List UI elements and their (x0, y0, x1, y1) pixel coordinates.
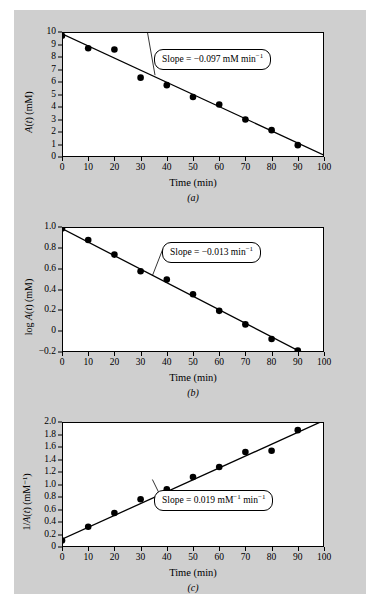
y-tick-label: 0 (51, 542, 62, 552)
data-point (295, 142, 302, 149)
x-tick-label: 10 (83, 547, 93, 563)
y-axis-label-b-text: log A(t) (mM) (23, 278, 34, 335)
slope-annotation-a: Slope = −0.097 mM min−1 (154, 49, 271, 70)
y-tick-label: 0 (51, 152, 62, 162)
panel-letter-b: (b) (62, 387, 324, 398)
y-tick-label: 0.2 (44, 306, 62, 316)
data-point (268, 127, 275, 134)
y-tick-label: 0.8 (44, 492, 62, 502)
y-axis-label-c-text: 1/A(t) (mM⁻¹) (21, 473, 32, 530)
data-point (137, 496, 144, 503)
plot-area-c: 010203040506070809010000.20.40.60.81.01.… (62, 422, 324, 547)
y-tick-label: 0 (51, 326, 62, 336)
chart-panel-b: log A(t) (mM) 0102030405060708090100−0.2… (14, 209, 366, 404)
x-tick-label: 10 (83, 352, 93, 368)
y-tick-label: −0.2 (39, 347, 62, 357)
y-tick-label: 0.4 (44, 517, 62, 527)
data-point (111, 251, 118, 258)
x-tick-label: 10 (83, 157, 93, 173)
data-point (111, 510, 118, 517)
data-point (242, 321, 249, 328)
y-axis-label-b: log A(t) (mM) (23, 278, 34, 335)
x-tick-label: 20 (110, 157, 120, 173)
data-point (216, 101, 223, 108)
data-point (242, 116, 249, 123)
x-tick-label: 90 (293, 547, 303, 563)
x-tick-label: 100 (317, 157, 331, 173)
x-tick-label: 20 (110, 352, 120, 368)
x-tick-label: 70 (241, 157, 251, 173)
x-tick-label: 30 (136, 157, 146, 173)
x-axis-label-c: Time (min) (62, 567, 324, 578)
y-tick-label: 0.2 (44, 530, 62, 540)
data-point (190, 474, 197, 481)
x-tick-label: 80 (267, 157, 277, 173)
data-point (62, 227, 65, 232)
x-tick-label: 50 (188, 157, 198, 173)
data-point (190, 94, 197, 101)
y-tick-label: 0.8 (44, 243, 62, 253)
data-point (295, 427, 302, 434)
y-tick-label: 2 (51, 127, 62, 137)
panel-letter-a: (a) (62, 192, 324, 203)
y-axis-label-a-text: A(t) (mM) (23, 91, 34, 132)
y-tick-label: 0.6 (44, 264, 62, 274)
panel-letter-c: (c) (62, 582, 324, 593)
x-tick-label: 30 (136, 352, 146, 368)
y-tick-label: 1.4 (44, 455, 62, 465)
x-tick-label: 60 (214, 157, 224, 173)
slope-annotation-c: Slope = 0.019 mM−1 min−1 (154, 490, 273, 511)
y-tick-label: 10 (47, 27, 63, 37)
y-tick-label: 1.0 (44, 222, 62, 232)
chart-panel-c: 1/A(t) (mM⁻¹) 010203040506070809010000.2… (14, 404, 366, 599)
y-axis-label-a: A(t) (mM) (23, 91, 34, 132)
chart-panel-a: A(t) (mM) 010203040506070809010001234567… (14, 14, 366, 209)
x-tick-label: 50 (188, 547, 198, 563)
x-tick-label: 40 (162, 352, 172, 368)
plot-canvas-c (62, 422, 324, 547)
data-point (137, 268, 144, 275)
x-tick-label: 80 (267, 352, 277, 368)
y-tick-label: 5 (51, 90, 62, 100)
y-tick-label: 3 (51, 115, 62, 125)
x-tick-label: 70 (241, 352, 251, 368)
annotation-leader-line (145, 32, 155, 75)
x-tick-label: 90 (293, 157, 303, 173)
y-tick-label: 0.4 (44, 285, 62, 295)
x-tick-label: 100 (317, 352, 331, 368)
data-point (164, 82, 171, 89)
data-point (242, 449, 249, 456)
data-point (268, 447, 275, 454)
data-point (268, 336, 275, 343)
y-tick-label: 2.0 (44, 417, 62, 427)
x-tick-label: 100 (317, 547, 331, 563)
data-point (62, 32, 65, 39)
data-point (111, 46, 118, 53)
data-point (85, 237, 92, 244)
x-tick-label: 40 (162, 547, 172, 563)
y-tick-label: 1.2 (44, 467, 62, 477)
figure-frame: A(t) (mM) 010203040506070809010001234567… (14, 10, 366, 594)
x-tick-label: 30 (136, 547, 146, 563)
data-point (85, 523, 92, 530)
x-axis-label-a: Time (min) (62, 177, 324, 188)
x-tick-label: 80 (267, 547, 277, 563)
x-tick-label: 50 (188, 352, 198, 368)
y-tick-label: 1.0 (44, 480, 62, 490)
x-tick-label: 60 (214, 547, 224, 563)
data-point (85, 45, 92, 52)
y-tick-label: 7 (51, 65, 62, 75)
y-tick-label: 1.6 (44, 442, 62, 452)
x-tick-label: 60 (214, 352, 224, 368)
x-tick-label: 40 (162, 157, 172, 173)
x-tick-label: 90 (293, 352, 303, 368)
x-tick-label: 70 (241, 547, 251, 563)
y-tick-label: 1.8 (44, 430, 62, 440)
y-tick-label: 0.6 (44, 505, 62, 515)
y-tick-label: 9 (51, 40, 62, 50)
y-tick-label: 6 (51, 77, 62, 87)
data-point (190, 291, 197, 298)
y-tick-label: 8 (51, 52, 62, 62)
y-axis-label-c: 1/A(t) (mM⁻¹) (21, 473, 32, 530)
data-point (164, 276, 171, 283)
